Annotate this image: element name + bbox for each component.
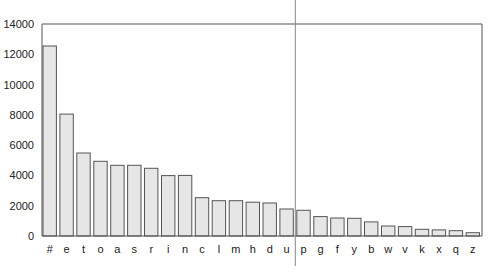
bar-y (348, 218, 361, 236)
x-tick-label: e (64, 243, 70, 255)
x-tick-label: l (218, 243, 220, 255)
bar-o (94, 161, 107, 236)
bar-v (398, 227, 411, 236)
y-tick-label: 4000 (10, 169, 34, 181)
bar-r (145, 168, 158, 236)
x-tick-label: s (132, 243, 138, 255)
x-tick-label: q (453, 243, 459, 255)
bar-chart: 02000400060008000100001200014000 #etoasr… (0, 0, 491, 275)
x-tick-label: i (167, 243, 169, 255)
x-tick-label: w (383, 243, 392, 255)
bar-d (263, 203, 276, 236)
y-tick-label: 2000 (10, 200, 34, 212)
bar-k (415, 229, 428, 236)
x-tick-label: b (368, 243, 374, 255)
x-tick-label: c (199, 243, 205, 255)
x-tick-label: # (47, 243, 54, 255)
y-tick-label: 12000 (3, 48, 34, 60)
x-tick-label: o (97, 243, 103, 255)
x-tick-label: v (402, 243, 408, 255)
y-axis-ticks: 02000400060008000100001200014000 (3, 18, 34, 242)
bar-u (280, 209, 293, 236)
x-tick-label: t (82, 243, 85, 255)
bar-i (162, 176, 175, 236)
x-tick-label: a (114, 243, 121, 255)
bar-a (111, 165, 124, 236)
x-tick-label: p (301, 243, 307, 255)
y-tick-label: 10000 (3, 79, 34, 91)
x-tick-label: h (250, 243, 256, 255)
bar-s (128, 165, 141, 236)
x-tick-label: f (336, 243, 340, 255)
x-tick-label: z (470, 243, 476, 255)
bar-hash (43, 46, 56, 236)
bars (43, 46, 480, 236)
x-axis-labels: #etoasrinclmhdupgfybwvkxqz (47, 243, 476, 255)
y-tick-label: 0 (28, 230, 34, 242)
bar-l (212, 201, 225, 236)
bar-g (314, 217, 327, 236)
y-tick-label: 6000 (10, 139, 34, 151)
bar-c (195, 198, 208, 236)
x-tick-label: r (149, 243, 153, 255)
bar-x (432, 230, 445, 236)
x-tick-label: u (284, 243, 290, 255)
x-tick-label: x (436, 243, 442, 255)
plot-frame (42, 24, 482, 236)
y-tick-label: 8000 (10, 109, 34, 121)
axis-frame (42, 24, 482, 236)
x-tick-label: d (267, 243, 273, 255)
x-tick-label: k (419, 243, 425, 255)
bar-e (60, 114, 73, 236)
bar-q (449, 231, 462, 236)
x-tick-label: g (317, 243, 323, 255)
x-tick-label: n (182, 243, 188, 255)
bar-f (331, 218, 344, 236)
bar-n (178, 175, 191, 236)
bar-h (246, 202, 259, 236)
x-tick-label: m (231, 243, 240, 255)
x-tick-label: y (352, 243, 358, 255)
y-tick-label: 14000 (3, 18, 34, 30)
bar-b (365, 222, 378, 236)
bar-t (77, 153, 90, 236)
bar-m (229, 201, 242, 236)
bar-w (382, 226, 395, 236)
bar-p (297, 210, 310, 236)
